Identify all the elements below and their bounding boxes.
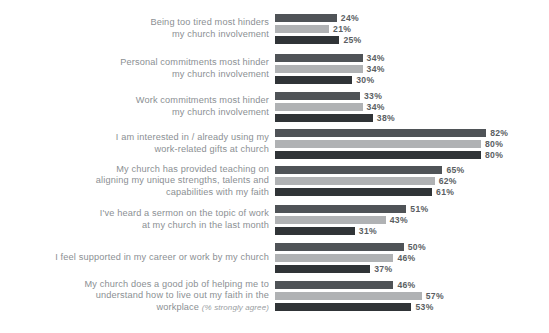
bar-value-label: 21% — [333, 24, 351, 34]
row-label-line: my church involvement — [172, 29, 269, 39]
row-label: I feel supported in my career or work by… — [0, 252, 275, 264]
bar-group-item: 31% — [275, 227, 377, 235]
bar-group-item: 38% — [275, 114, 395, 122]
row-bars: 46%57%53% — [275, 281, 549, 311]
row-label: I am interested in / already using mywor… — [0, 132, 275, 155]
row-bars: 24%21%25% — [275, 14, 549, 44]
chart-row: Work commitments most hindermy church in… — [0, 92, 549, 122]
row-label-line: my church involvement — [172, 107, 269, 117]
bar-rect — [275, 14, 337, 22]
chart-rows-container: Being too tired most hindersmy church in… — [0, 0, 549, 333]
row-label-line: Being too tired most hinders — [150, 17, 269, 27]
bar-value-label: 34% — [367, 64, 385, 74]
bar-rect — [275, 114, 373, 122]
row-bars: 82%80%80% — [275, 129, 549, 159]
bar-rect — [275, 92, 360, 100]
bar-group-item: 65% — [275, 166, 464, 174]
row-label: My church does a good job of helping me … — [0, 279, 275, 314]
bar-rect — [275, 151, 481, 159]
row-label-line: workplace — [156, 302, 199, 312]
bar-group-item: 24% — [275, 14, 359, 22]
bar-rect — [275, 216, 386, 224]
row-label-line: aligning my unique strengths, talents an… — [96, 175, 269, 185]
bar-rect — [275, 265, 370, 273]
chart-row: Being too tired most hindersmy church in… — [0, 14, 549, 44]
bar-value-label: 65% — [446, 165, 464, 175]
bar-group-item: 34% — [275, 54, 385, 62]
row-label-line: understand how to live out my faith in t… — [96, 290, 269, 300]
chart-row: My church has provided teaching onaligni… — [0, 166, 549, 196]
bar-group-item: 33% — [275, 92, 382, 100]
bar-value-label: 37% — [374, 264, 392, 274]
bar-group-item: 61% — [275, 188, 454, 196]
bar-value-label: 31% — [359, 226, 377, 236]
bar-value-label: 80% — [485, 150, 503, 160]
bar-group-item: 50% — [275, 243, 426, 251]
bar-value-label: 61% — [436, 187, 454, 197]
row-label: I've heard a sermon on the topic of work… — [0, 208, 275, 231]
bar-group-item: 46% — [275, 281, 416, 289]
bar-value-label: 82% — [490, 128, 508, 138]
bar-value-label: 24% — [341, 13, 359, 23]
bar-value-label: 46% — [397, 280, 415, 290]
bar-value-label: 51% — [410, 204, 428, 214]
bar-group-item: 46% — [275, 254, 416, 262]
bar-value-label: 33% — [364, 91, 382, 101]
bar-rect — [275, 292, 422, 300]
row-bars: 33%34%38% — [275, 92, 549, 122]
bar-group-item: 53% — [275, 303, 434, 311]
bar-rect — [275, 281, 393, 289]
row-label-line: My church does a good job of helping me … — [84, 279, 269, 289]
bar-group-item: 43% — [275, 216, 408, 224]
bar-group-item: 51% — [275, 205, 428, 213]
row-label-line: Personal commitments most hinder — [120, 57, 269, 67]
row-bars: 65%62%61% — [275, 166, 549, 196]
bar-value-label: 34% — [367, 53, 385, 63]
bar-value-label: 53% — [415, 302, 433, 312]
bar-value-label: 57% — [426, 291, 444, 301]
bar-value-label: 80% — [485, 139, 503, 149]
bar-rect — [275, 140, 481, 148]
bar-group-item: 80% — [275, 140, 503, 148]
bar-rect — [275, 188, 432, 196]
bar-group-item: 34% — [275, 103, 385, 111]
row-label-line: Work commitments most hinder — [136, 95, 269, 105]
bar-group-item: 34% — [275, 65, 385, 73]
bar-chart: Being too tired most hindersmy church in… — [0, 0, 549, 333]
row-label-line: capabilities with my faith — [166, 187, 269, 197]
bar-value-label: 34% — [367, 102, 385, 112]
bar-rect — [275, 103, 363, 111]
chart-row: I feel supported in my career or work by… — [0, 243, 549, 273]
bar-rect — [275, 76, 352, 84]
bar-rect — [275, 303, 411, 311]
chart-row: I am interested in / already using mywor… — [0, 129, 549, 159]
bar-rect — [275, 54, 363, 62]
row-label-line: I am interested in / already using my — [116, 132, 269, 142]
bar-rect — [275, 177, 435, 185]
bar-group-item: 21% — [275, 25, 351, 33]
bar-group-item: 30% — [275, 76, 374, 84]
bar-value-label: 25% — [343, 35, 361, 45]
bar-rect — [275, 227, 355, 235]
bar-rect — [275, 205, 406, 213]
bar-value-label: 46% — [397, 253, 415, 263]
bar-group-item: 82% — [275, 129, 508, 137]
row-label: My church has provided teaching onaligni… — [0, 164, 275, 199]
bar-group-item: 25% — [275, 36, 361, 44]
bar-rect — [275, 65, 363, 73]
bar-group-item: 62% — [275, 177, 457, 185]
bar-group-item: 37% — [275, 265, 392, 273]
row-label: Work commitments most hindermy church in… — [0, 95, 275, 118]
row-bars: 34%34%30% — [275, 54, 549, 84]
row-label: Personal commitments most hindermy churc… — [0, 57, 275, 80]
bar-rect — [275, 166, 442, 174]
bar-rect — [275, 129, 486, 137]
row-label-line: my church involvement — [172, 69, 269, 79]
bar-value-label: 50% — [408, 242, 426, 252]
bar-rect — [275, 254, 393, 262]
bar-rect — [275, 36, 339, 44]
row-bars: 50%46%37% — [275, 243, 549, 273]
row-label-line: at my church in the last month — [142, 220, 269, 230]
row-label-line: I feel supported in my career or work by… — [55, 252, 269, 262]
chart-row: My church does a good job of helping me … — [0, 281, 549, 311]
